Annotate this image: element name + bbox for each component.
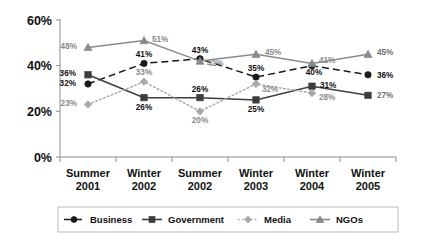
data-label: 36%	[60, 69, 77, 78]
data-label: 20%	[192, 116, 209, 125]
data-label: 45%	[377, 48, 394, 57]
data-label: 51%	[152, 35, 169, 44]
x-category-line: 2004	[300, 180, 325, 192]
data-labels: 32%41%43%35%40%36%36%26%26%25%31%27%23%3…	[60, 35, 394, 126]
axes: 60%40%20%0%Summer2001Winter2002Summer200…	[27, 14, 396, 193]
y-axis-label: 0%	[34, 151, 52, 165]
data-label: 41%	[136, 50, 153, 59]
x-category-line: Winter	[351, 167, 386, 179]
marker-circle	[85, 81, 91, 87]
line-chart: 60%40%20%0%Summer2001Winter2002Summer200…	[0, 0, 423, 244]
marker-square	[85, 72, 91, 78]
marker-diamond	[308, 89, 316, 97]
data-label: 32%	[262, 85, 279, 94]
data-label: 27%	[377, 91, 394, 100]
data-label: 45%	[265, 48, 282, 57]
x-category-line: Summer	[66, 167, 111, 179]
marker-square	[141, 94, 147, 100]
data-label: 35%	[248, 64, 265, 73]
marker-square	[149, 217, 155, 223]
data-label: 42%	[207, 59, 224, 68]
marker-square	[365, 92, 371, 98]
data-label: 25%	[248, 105, 265, 114]
marker-square	[309, 83, 315, 89]
x-category-line: Summer	[178, 167, 223, 179]
x-category-label: Winter2003	[239, 167, 274, 192]
x-category-label: Winter2005	[351, 167, 386, 192]
legend: BusinessGovernmentMediaNGOs	[58, 207, 398, 232]
y-axis-label: 60%	[27, 14, 52, 28]
x-category-line: 2002	[188, 180, 212, 192]
data-label: 23%	[61, 99, 78, 108]
x-category-line: 2003	[244, 180, 268, 192]
legend-label-text: Media	[264, 214, 292, 225]
marker-diamond	[84, 101, 92, 109]
data-label: 28%	[319, 93, 336, 102]
x-category-label: Summer2002	[178, 167, 223, 192]
x-category-line: 2002	[132, 180, 156, 192]
data-label: 48%	[61, 42, 78, 51]
marker-diamond	[196, 108, 204, 116]
marker-diamond	[140, 78, 148, 86]
marker-diamond	[252, 80, 260, 88]
y-axis-label: 40%	[27, 59, 52, 73]
marker-circle	[253, 74, 259, 80]
data-label: 41%	[319, 56, 336, 65]
x-category-line: 2005	[356, 180, 380, 192]
x-category-label: Winter2002	[127, 167, 162, 192]
x-category-line: Winter	[295, 167, 330, 179]
data-label: 26%	[136, 103, 153, 112]
legend-label-text: Business	[90, 214, 132, 225]
x-category-line: Winter	[127, 167, 162, 179]
data-label: 32%	[60, 79, 77, 88]
marker-square	[197, 94, 203, 100]
data-label: 26%	[192, 85, 209, 94]
x-category-label: Summer2001	[66, 167, 111, 192]
data-label: 36%	[377, 71, 394, 80]
data-label: 31%	[320, 81, 337, 90]
marker-triangle	[364, 50, 372, 57]
x-category-line: Winter	[239, 167, 274, 179]
legend-label-text: Government	[168, 214, 225, 225]
y-axis-label: 20%	[27, 105, 52, 119]
x-category-line: 2001	[76, 180, 100, 192]
marker-circle	[71, 217, 77, 223]
x-category-label: Winter2004	[295, 167, 330, 192]
chart-container: 60%40%20%0%Summer2001Winter2002Summer200…	[0, 0, 423, 244]
data-label: 43%	[192, 46, 209, 55]
marker-circle	[141, 60, 147, 66]
legend-label-text: NGOs	[336, 214, 363, 225]
data-label: 40%	[306, 68, 323, 77]
marker-circle	[365, 72, 371, 78]
marker-square	[253, 97, 259, 103]
data-label: 33%	[136, 68, 153, 77]
